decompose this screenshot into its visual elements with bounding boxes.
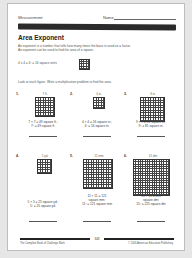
page-number: 343 [92, 237, 102, 241]
dimension-label: 5 yd. [18, 154, 72, 158]
dimension-label: 4 in. [72, 92, 126, 96]
dimension-label: 15 dm [126, 154, 180, 158]
page-title: Area Exponent [18, 34, 64, 41]
square-grid [140, 97, 165, 122]
answer-blank[interactable] [137, 136, 165, 137]
intro-text: An exponent is a number that tells how m… [18, 44, 178, 53]
grid-cell [51, 113, 54, 116]
footer-rule-right [104, 238, 174, 240]
grid-cell [102, 106, 105, 109]
grid-cell [109, 185, 112, 188]
name-label: Name [103, 15, 114, 20]
footer-bar: 343 [20, 238, 174, 240]
answer-blank[interactable] [83, 136, 111, 137]
answer-text: 15 × 15 = 225 square dm; 15² = 225 squar… [124, 194, 178, 207]
dimension-label: 9 in. [126, 92, 180, 96]
example-text: 4 x 4 = 4² = 16 square units [18, 61, 57, 65]
square-grid [37, 159, 52, 174]
answer-line-2: 7² = 49 square ft. [16, 124, 70, 128]
answer-text: 5 × 5 = 25 square yd.; 5² = 25 square yd… [16, 200, 70, 208]
subject-label: Measurement [18, 15, 42, 20]
square-grid [83, 159, 113, 189]
answer-text: 4 × 4 = 16 square in.; 4² = 16 square in… [70, 120, 124, 128]
instructions: Look at each figure. Write a multiplicat… [18, 80, 112, 84]
answer-line-2: 4² = 16 square in. [70, 124, 124, 128]
page-header: Measurement Name [18, 15, 176, 21]
footer-book-title: The Complete Book of Challenge Math [20, 242, 65, 245]
worksheet-page: Measurement Name Area Exponent An expone… [7, 3, 185, 251]
example-grid-squares [79, 59, 90, 70]
answer-line-3: 11² = 121 square mm [70, 202, 124, 206]
grid-cell [48, 170, 51, 173]
answer-blank[interactable] [137, 221, 165, 222]
grid-cell [87, 67, 89, 69]
dimension-label: 7 ft. [18, 92, 72, 96]
answer-text: 9 × 9 = 81 square in.; 9² = 81 square in… [124, 120, 178, 128]
answer-blank[interactable] [29, 221, 57, 222]
square-grid [133, 159, 170, 196]
answer-line-2: 9² = 81 square in. [124, 124, 178, 128]
dimension-label: 11 mm [72, 154, 126, 158]
footer-copyright: © 2005 American Education Publishing [128, 242, 173, 245]
header-bar [18, 24, 176, 31]
intro-line-2: An exponent can be used to find the area… [18, 48, 178, 52]
answer-text: 7 × 7 = 49 square ft.; 7² = 49 square ft… [16, 120, 70, 128]
square-grid [93, 97, 105, 109]
square-grid [35, 97, 55, 117]
answer-blank[interactable] [29, 136, 57, 137]
answer-blank[interactable] [83, 221, 111, 222]
name-line [114, 19, 176, 20]
answer-line-2: 5² = 25 square yd. [16, 204, 70, 208]
answer-line-3: 15² = 225 square dm [124, 202, 178, 206]
answer-text: 11 × 11 = 121 square mm; 11² = 121 squar… [70, 194, 124, 207]
footer-rule-left [20, 238, 90, 240]
